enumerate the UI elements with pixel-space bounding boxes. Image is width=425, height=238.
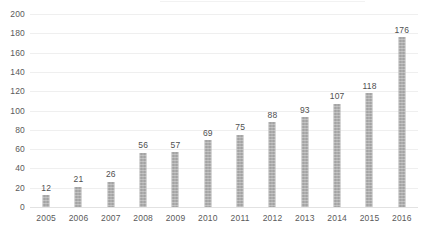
y-tick-label: 60 [3,145,25,154]
x-axis: 2005200620072008200920102011201220132014… [30,0,418,238]
y-tick-label: 200 [3,10,25,19]
y-tick-label: 160 [3,49,25,58]
y-tick-label: 80 [3,126,25,135]
y-tick-label: 100 [3,107,25,116]
y-tick-label: 40 [3,164,25,173]
x-tick-label: 2016 [382,214,422,223]
y-tick-label: 20 [3,184,25,193]
y-tick-label: 140 [3,68,25,77]
bar-chart: 020406080100120140160180200 122126565769… [0,0,425,238]
y-tick-label: 120 [3,87,25,96]
y-tick-label: 180 [3,29,25,38]
y-tick-label: 0 [3,203,25,212]
